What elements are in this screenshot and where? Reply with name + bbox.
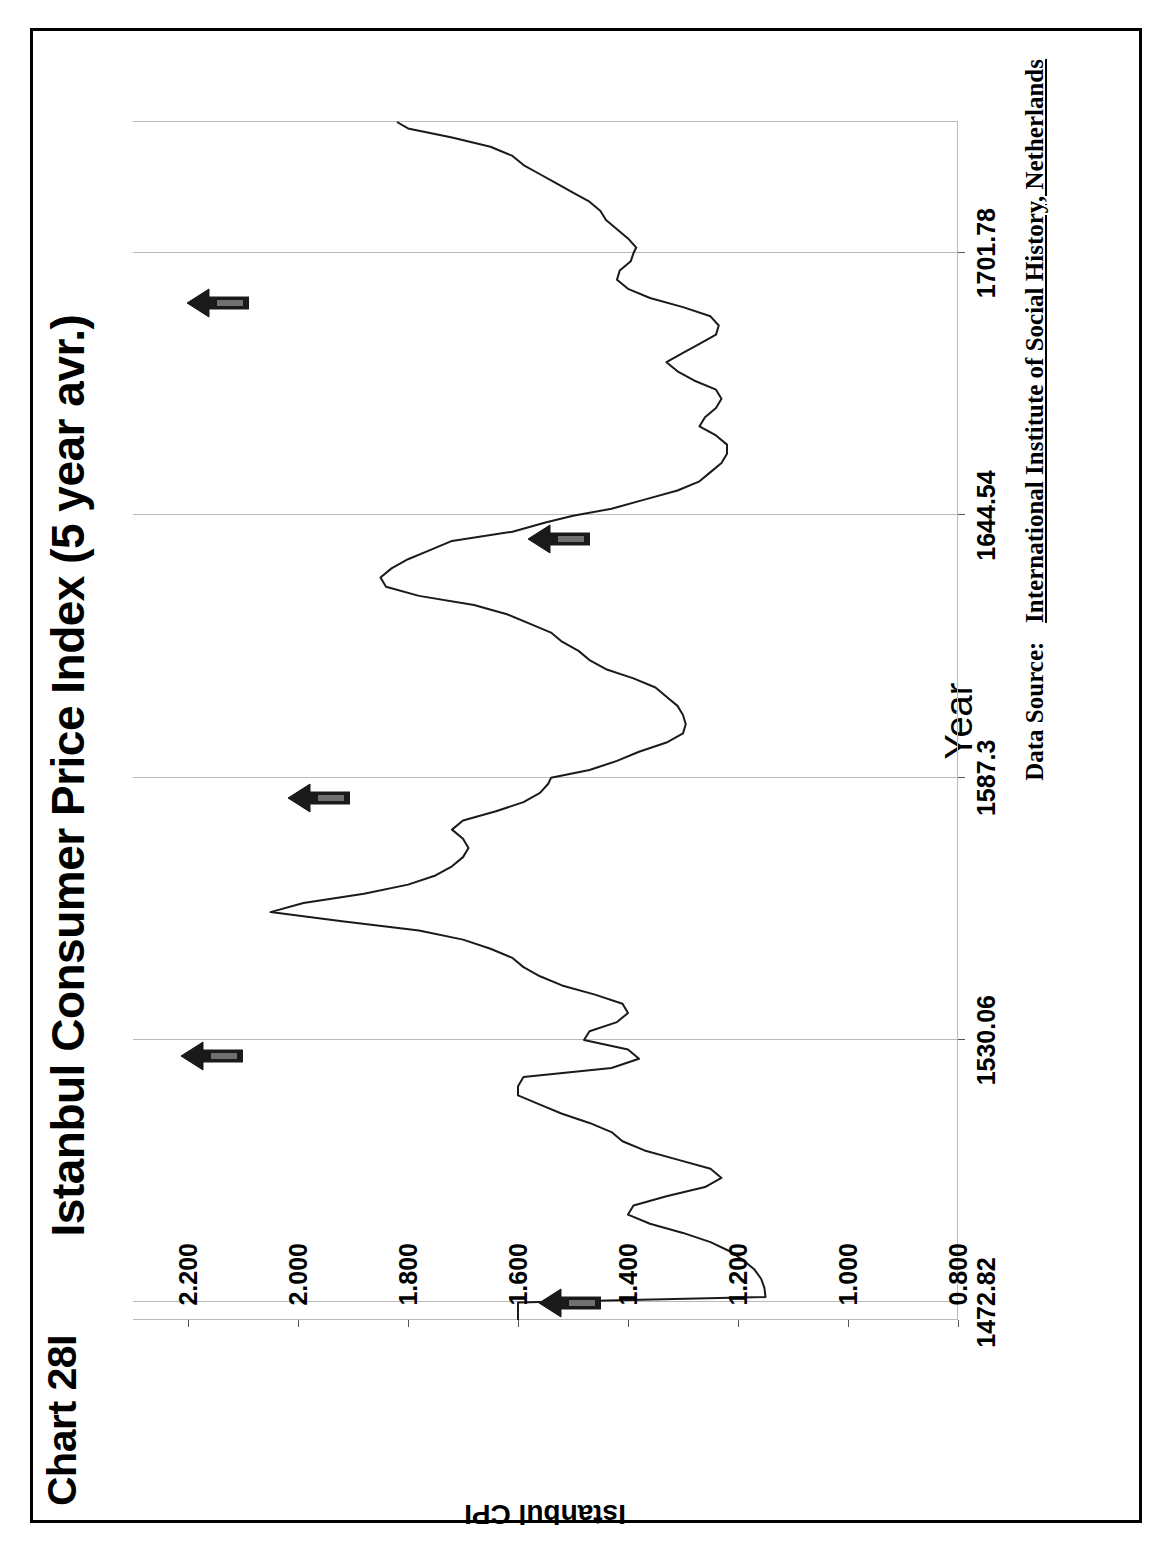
data-series-layer <box>133 122 958 1320</box>
up-arrow-icon <box>288 783 350 813</box>
x-tick-label: 1701.78 <box>972 208 1001 298</box>
x-tick-mark <box>958 777 965 778</box>
x-tick-label: 1644.54 <box>972 470 1001 560</box>
x-tick-label: 1472.82 <box>972 1257 1001 1347</box>
x-tick-label: 1587.3 <box>972 740 1001 816</box>
up-arrow-icon <box>528 524 590 554</box>
x-tick-mark <box>958 1039 965 1040</box>
y-axis-title: Istanbul CPI <box>464 1498 626 1530</box>
x-tick-mark <box>958 252 965 253</box>
up-arrow-icon <box>181 1041 243 1071</box>
y-tick-label: 2.000 <box>284 1243 313 1363</box>
data-source-note: Data Source: International Institute of … <box>1021 59 1049 781</box>
chart-title: Istanbul Consumer Price Index (5 year av… <box>41 31 95 1520</box>
series-line <box>271 122 766 1320</box>
y-tick-label: 1.200 <box>724 1243 753 1363</box>
plot-area <box>133 122 958 1320</box>
data-source-prefix: Data Source: <box>1021 642 1048 781</box>
up-arrow-icon <box>187 288 249 318</box>
y-tick-label: 1.600 <box>504 1243 533 1363</box>
rotated-chart-stage: Chart 28I Istanbul Consumer Price Index … <box>33 31 1139 1520</box>
y-tick-label: 1.400 <box>614 1243 643 1363</box>
y-tick-label: 2.200 <box>174 1243 203 1363</box>
data-source-value: International Institute of Social Histor… <box>1021 59 1048 623</box>
y-tick-label: 1.000 <box>834 1243 863 1363</box>
x-tick-mark <box>958 515 965 516</box>
x-tick-label: 1530.06 <box>972 995 1001 1085</box>
up-arrow-icon <box>539 1288 601 1318</box>
y-tick-label: 0.800 <box>944 1243 973 1363</box>
printed-page: Chart 28I Istanbul Consumer Price Index … <box>0 0 1170 1553</box>
y-tick-label: 1.800 <box>394 1243 423 1363</box>
